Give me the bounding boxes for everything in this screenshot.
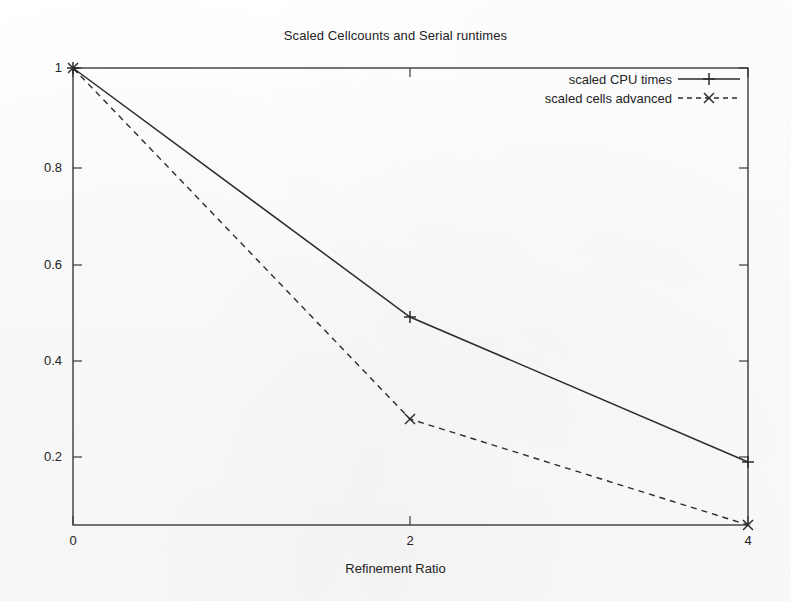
y-tick-label-0-2: 0.2 [6, 449, 62, 464]
x-axis-label: Refinement Ratio [0, 561, 791, 576]
legend-label-scaled-cpu-times: scaled CPU times [569, 72, 672, 87]
x-axis-ticks [73, 516, 748, 525]
plot-canvas [0, 0, 791, 601]
x-tick-label-2: 2 [380, 533, 440, 548]
chart-figure: Scaled Cellcounts and Serial runtimes [0, 0, 791, 601]
legend-sample-scaled-cpu-times [678, 73, 740, 85]
series-line-scaled-cells-advanced [73, 68, 748, 525]
series-line-scaled-cpu-times [73, 68, 748, 462]
y-tick-label-1: 1 [6, 60, 62, 75]
x-tick-label-4: 4 [718, 533, 778, 548]
y-tick-label-0-4: 0.4 [6, 353, 62, 368]
series-markers-scaled-cpu-times [67, 62, 754, 468]
legend-sample-scaled-cells-advanced [678, 93, 740, 103]
legend-label-scaled-cells-advanced: scaled cells advanced [545, 91, 672, 106]
series-scaled-cells-advanced [68, 63, 753, 530]
y-tick-label-0-6: 0.6 [6, 257, 62, 272]
plot-frame [73, 68, 748, 525]
y-tick-label-0-8: 0.8 [6, 160, 62, 175]
series-scaled-cpu-times [67, 62, 754, 468]
y-axis-ticks-right [739, 68, 748, 457]
y-axis-ticks [73, 68, 82, 457]
x-tick-label-0: 0 [43, 533, 103, 548]
series-markers-scaled-cells-advanced [68, 63, 753, 530]
